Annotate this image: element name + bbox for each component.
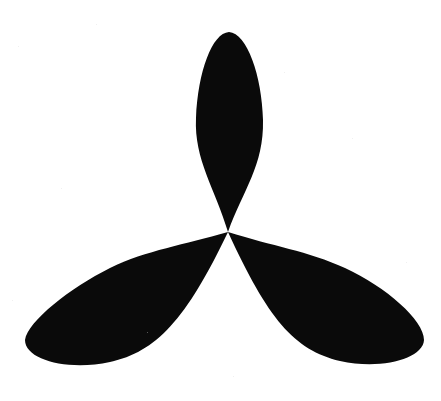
trefoil-propeller-figure: Three-bladed trefoil propeller silhouett… [0,0,441,401]
image-canvas: Three-bladed trefoil propeller silhouett… [0,0,441,401]
